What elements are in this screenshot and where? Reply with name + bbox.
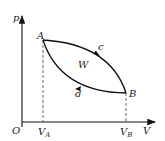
- pv-diagram: p V O A B c d W VA VB: [0, 0, 165, 141]
- axis-label-v: V: [143, 125, 152, 136]
- tick-label-va: VA: [38, 126, 50, 139]
- origin-label: O: [12, 125, 20, 136]
- axis-label-p: p: [13, 12, 20, 23]
- curve-label-c: c: [98, 41, 104, 52]
- point-label-a: A: [36, 30, 44, 41]
- point-label-b: B: [128, 88, 136, 99]
- tick-label-vb: VB: [120, 126, 132, 139]
- area-label-w: W: [78, 59, 89, 70]
- curve-label-d: d: [75, 88, 81, 99]
